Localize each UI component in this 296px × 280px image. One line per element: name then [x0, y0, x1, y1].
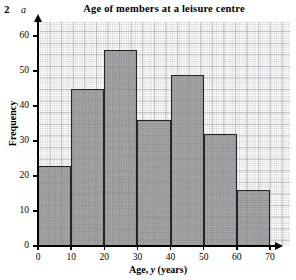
y-axis-tick-label: 0 [9, 241, 29, 251]
plot-area [38, 22, 290, 246]
x-axis-tick [269, 246, 270, 250]
x-axis-label-post: (years) [155, 264, 187, 275]
histogram-bar [237, 190, 270, 246]
question-number: 2 [4, 3, 10, 15]
histogram-bar [171, 75, 204, 247]
y-axis-tick [33, 70, 37, 71]
y-axis-label: Frequency [7, 84, 18, 164]
y-axis-tick [33, 140, 37, 141]
y-axis-arrow-icon [34, 14, 42, 22]
x-axis-tick [170, 246, 171, 250]
x-axis-tick [137, 246, 138, 250]
x-axis-tick-label: 0 [26, 252, 50, 262]
y-axis-tick [33, 105, 37, 106]
x-axis-tick-label: 30 [125, 252, 149, 262]
x-axis-tick [104, 246, 105, 250]
y-axis-tick-label: 50 [9, 66, 29, 76]
x-axis-tick-label: 10 [59, 252, 83, 262]
x-axis-tick [37, 246, 38, 250]
x-axis-tick-label: 40 [159, 252, 183, 262]
histogram-bar [137, 120, 170, 246]
x-axis-tick [70, 246, 71, 250]
x-axis-tick [203, 246, 204, 250]
x-axis-tick-label: 20 [92, 252, 116, 262]
y-axis-tick-label: 10 [9, 206, 29, 216]
y-axis-line [37, 22, 39, 246]
histogram-bar [204, 134, 237, 246]
x-axis-line [37, 245, 276, 247]
x-axis-tick-label: 50 [192, 252, 216, 262]
x-axis-tick-label: 60 [225, 252, 249, 262]
y-axis-tick-label: 20 [9, 171, 29, 181]
histogram-bar [38, 166, 71, 247]
y-axis-tick [33, 175, 37, 176]
x-axis-arrow-icon [275, 242, 283, 250]
y-axis-tick [33, 210, 37, 211]
question-part-label: a [21, 4, 26, 16]
x-axis-tick-label: 70 [258, 252, 282, 262]
histogram-bar [104, 50, 137, 246]
y-axis-tick-label: 60 [9, 31, 29, 41]
y-axis-tick [33, 35, 37, 36]
x-axis-label: Age, y (years) [38, 264, 278, 275]
chart-title: Age of members at a leisure centre [38, 2, 290, 15]
histogram-figure: 2 a Age of members at a leisure centre 0… [0, 0, 296, 280]
x-axis-label-pre: Age, [129, 264, 151, 275]
x-axis-tick [236, 246, 237, 250]
histogram-bar [71, 89, 104, 247]
